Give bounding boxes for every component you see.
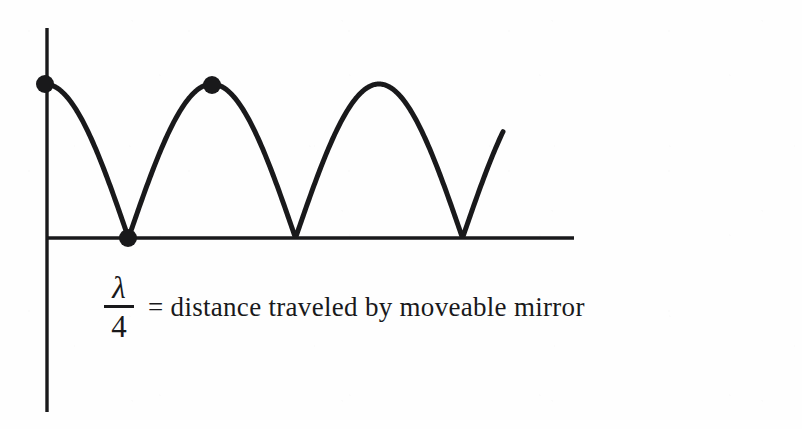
fringe-diagram-figure: λ 4 = distance traveled by moveable mirr… [0, 0, 802, 429]
caption-text: = distance traveled by moveable mirror [148, 292, 585, 323]
caption-block: λ 4 = distance traveled by moveable mirr… [104, 272, 585, 342]
lambda-over-four-fraction: λ 4 [104, 272, 134, 342]
fringe-intensity-curve [45, 84, 503, 237]
fraction-denominator: 4 [107, 308, 131, 342]
curve-marker-first-minimum [119, 229, 137, 247]
interference-plot [0, 0, 802, 429]
curve-marker-second-maximum [203, 76, 221, 94]
curve-marker-start-maximum [36, 75, 54, 93]
fraction-numerator: λ [108, 272, 129, 305]
curve-marker-group [36, 75, 221, 247]
